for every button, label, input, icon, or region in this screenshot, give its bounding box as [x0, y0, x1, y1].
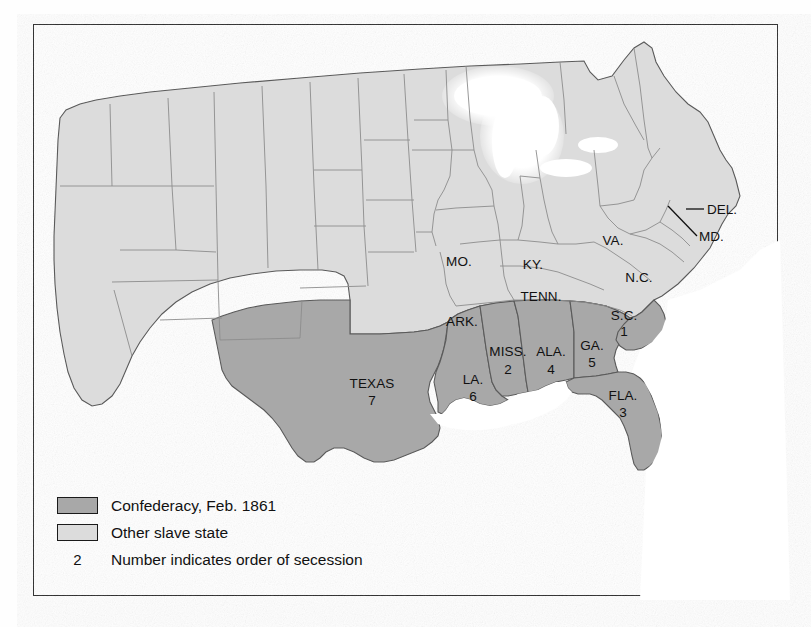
legend-row-confederacy: Confederacy, Feb. 1861	[57, 492, 477, 519]
legend-row-secession-number: 2 Number indicates order of secession	[57, 546, 477, 573]
legend-example-number: 2	[57, 551, 98, 568]
map-figure: S.C. 1 MISS. 2 FLA. 3 ALA. 4 GA. 5 LA. 6	[0, 0, 811, 627]
legend-label-other-slave-state: Other slave state	[111, 524, 228, 542]
legend-swatch-confederacy-icon	[57, 497, 98, 514]
legend-row-other-slave-state: Other slave state	[57, 519, 477, 546]
map-legend: Confederacy, Feb. 1861 Other slave state…	[57, 492, 477, 573]
legend-swatch-other-slave-state-icon	[57, 524, 98, 541]
legend-label-confederacy: Confederacy, Feb. 1861	[111, 497, 276, 515]
legend-label-secession-number: Number indicates order of secession	[111, 551, 363, 569]
